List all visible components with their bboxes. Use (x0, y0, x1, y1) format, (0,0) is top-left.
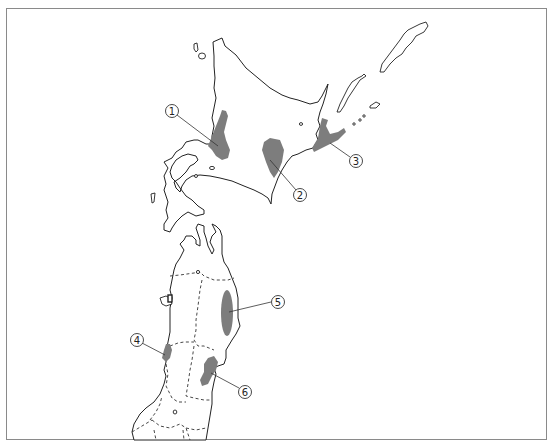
svg-text:3: 3 (353, 156, 359, 167)
label-6: 6 (211, 373, 252, 399)
label-4: 4 (131, 334, 166, 356)
shikotan-island (370, 102, 380, 108)
svg-text:2: 2 (297, 190, 303, 201)
map-canvas: 1 2 3 4 5 6 (0, 0, 554, 448)
label-3: 3 (330, 143, 363, 168)
shaded-region-5 (221, 290, 233, 336)
svg-text:4: 4 (134, 335, 140, 346)
habomai-islet-1 (353, 123, 355, 125)
towada-lake (196, 270, 199, 273)
rishiri-island (199, 53, 206, 59)
hachirogata-marker (168, 295, 172, 302)
okushiri-island (151, 193, 155, 203)
svg-text:6: 6 (242, 387, 248, 398)
svg-text:5: 5 (275, 297, 281, 308)
label-1: 1 (166, 105, 219, 147)
hokkaido-landmass (164, 38, 328, 232)
small-lake-3 (195, 175, 198, 178)
small-lake-4 (173, 410, 177, 414)
small-lake-2 (210, 166, 215, 169)
small-lake-1 (299, 123, 302, 126)
etorofu-island (380, 22, 428, 72)
svg-text:1: 1 (169, 106, 175, 117)
rebun-island (194, 43, 198, 52)
habomai-islet-2 (359, 119, 361, 121)
kunashiri-island (337, 74, 366, 112)
habomai-islet-3 (363, 115, 365, 117)
